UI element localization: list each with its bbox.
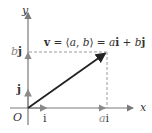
vector-v bbox=[28, 54, 105, 109]
vector-equation: v = ⟨a, b⟩ = ai + bj bbox=[44, 37, 145, 48]
y-axis-label: y bbox=[22, 5, 28, 16]
origin-label: O bbox=[13, 112, 22, 123]
bj-label: bj bbox=[11, 46, 22, 57]
vector-components-diagram: y x O bj j i ai v = ⟨a, b⟩ = ai + bj bbox=[0, 0, 152, 133]
ai-label: ai bbox=[99, 113, 109, 124]
diagram-graphics bbox=[0, 0, 152, 133]
unit-i-label: i bbox=[43, 113, 47, 124]
x-axis-label: x bbox=[140, 102, 146, 113]
unit-j-label: j bbox=[17, 84, 21, 95]
